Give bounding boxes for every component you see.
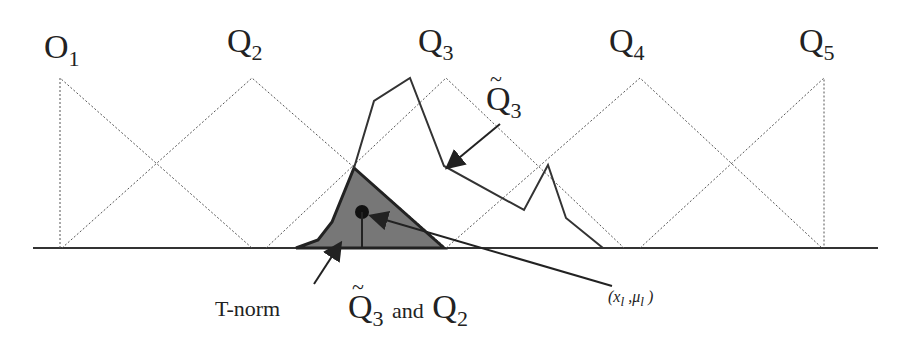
label-q3: Q3 (418, 24, 454, 64)
point-label: (xl ,μl ) (608, 288, 653, 310)
label-q4: Q4 (609, 24, 645, 64)
tnorm-region (296, 168, 444, 248)
caption: Q3 and Q2 (348, 290, 468, 330)
label-q5: Q5 (799, 24, 835, 64)
q5-triangle (640, 78, 824, 248)
q3-tilde-arrow (448, 124, 500, 167)
label-q3-tilde: Q3 (486, 82, 522, 122)
label-q2: Q2 (227, 24, 263, 64)
caption-q3-base: Q (348, 290, 373, 324)
label-o1: O1 (44, 30, 80, 70)
caption-and: and (392, 298, 424, 323)
tnorm-arrow (314, 244, 340, 284)
tnorm-label: T-norm (215, 298, 280, 320)
